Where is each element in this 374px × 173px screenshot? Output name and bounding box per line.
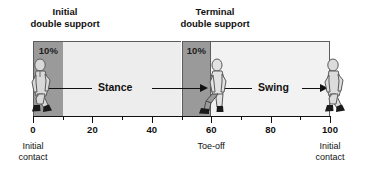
event-toe-off: Toe-off	[176, 141, 246, 152]
event-toe-off-line1: Toe-off	[176, 141, 246, 152]
axis-label-80: 80	[251, 124, 291, 135]
segment-label-terminal-double-support: 10%	[183, 45, 211, 56]
axis-tick-40	[152, 116, 153, 123]
segment-label-initial-double-support: 10%	[34, 45, 63, 56]
axis-tick-30	[122, 116, 123, 120]
swing-label: Swing	[254, 81, 293, 93]
event-initial-contact-start: Initial contact	[0, 141, 68, 163]
caption-initial-double-support: Initial double support	[0, 6, 130, 29]
axis-tick-20	[92, 116, 93, 123]
axis-label-20: 20	[72, 124, 112, 135]
caption-initial-line1: Initial	[0, 6, 130, 18]
event-initial-contact-start-line1: Initial	[0, 141, 68, 152]
caption-terminal-line2: double support	[150, 18, 280, 30]
stance-label: Stance	[94, 81, 136, 93]
segment-single-limb-support	[63, 41, 182, 116]
axis-tick-100	[330, 116, 331, 123]
axis-tick-70	[241, 116, 242, 120]
caption-terminal-line1: Terminal	[150, 6, 280, 18]
gait-bar: 10% 10% 60% 40%	[33, 41, 330, 116]
axis-tick-0	[33, 116, 34, 123]
axis-tick-50	[182, 116, 183, 120]
event-initial-contact-end-line1: Initial	[295, 141, 365, 152]
event-initial-contact-end-line2: contact	[295, 152, 365, 163]
axis-tick-80	[271, 116, 272, 123]
caption-terminal-double-support: Terminal double support	[150, 6, 280, 29]
axis-label-0: 0	[13, 124, 53, 135]
event-initial-contact-end: Initial contact	[295, 141, 365, 163]
axis-tick-10	[63, 116, 64, 120]
caption-initial-line2: double support	[0, 18, 130, 30]
axis-tick-90	[300, 116, 301, 120]
event-initial-contact-start-line2: contact	[0, 152, 68, 163]
gait-cycle-diagram: Initial double support Terminal double s…	[0, 0, 374, 173]
axis-label-100: 100	[310, 124, 350, 135]
axis-label-40: 40	[132, 124, 172, 135]
axis-tick-60	[211, 116, 212, 123]
axis-label-60: 60	[191, 124, 231, 135]
